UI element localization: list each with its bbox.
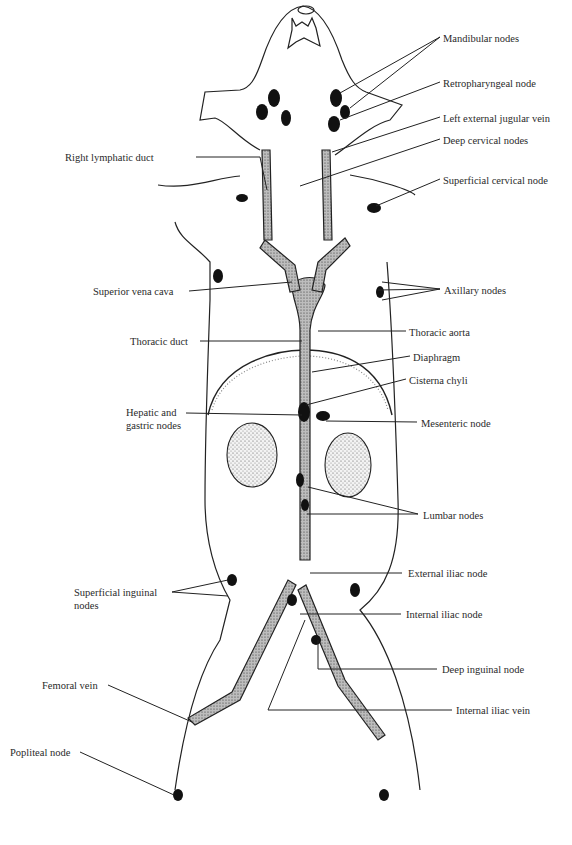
label-mandibular-nodes: Mandibular nodes [443, 32, 519, 45]
right-jugular [262, 150, 272, 240]
label-axillary-nodes: Axillary nodes [444, 284, 506, 297]
label-deep-cervical-nodes: Deep cervical nodes [443, 134, 528, 147]
label-hepatic-and-gastric-nodes: Hepatic and gastric nodes [126, 406, 181, 432]
label-diaphragm: Diaphragm [413, 351, 460, 364]
label-superficial-inguinal-nodes: Superficial inguinal nodes [74, 586, 157, 612]
left-jugular [322, 150, 332, 240]
label-thoracic-duct: Thoracic duct [130, 335, 188, 348]
left-kidney [325, 433, 371, 497]
label-internal-iliac-vein: Internal iliac vein [456, 704, 530, 717]
label-cisterna-chyli: Cisterna chyli [409, 374, 468, 387]
left-femoral [298, 585, 385, 740]
label-internal-iliac-node: Internal iliac node [406, 608, 482, 621]
label-mesenteric-node: Mesenteric node [421, 417, 491, 430]
label-retropharyngeal-node: Retropharyngeal node [443, 77, 536, 90]
right-femoral [188, 580, 296, 725]
right-kidney [227, 423, 277, 487]
label-right-lymphatic-duct: Right lymphatic duct [65, 151, 154, 164]
lymphatic-diagram: Mandibular nodes Retropharyngeal node Le… [0, 0, 572, 845]
label-left-external-jugular-vein: Left external jugular vein [443, 112, 550, 125]
label-external-iliac-node: External iliac node [408, 567, 487, 580]
label-thoracic-aorta: Thoracic aorta [409, 326, 470, 339]
label-superficial-cervical-node: Superficial cervical node [443, 174, 548, 187]
label-superior-vena-cava: Superior vena cava [93, 285, 173, 298]
label-femoral-vein: Femoral vein [42, 679, 98, 692]
label-lumbar-nodes: Lumbar nodes [423, 509, 483, 522]
label-deep-inguinal-node: Deep inguinal node [442, 663, 524, 676]
head-outline [200, 6, 402, 155]
vena-cava-right [312, 238, 350, 292]
label-popliteal-node: Popliteal node [10, 746, 70, 759]
